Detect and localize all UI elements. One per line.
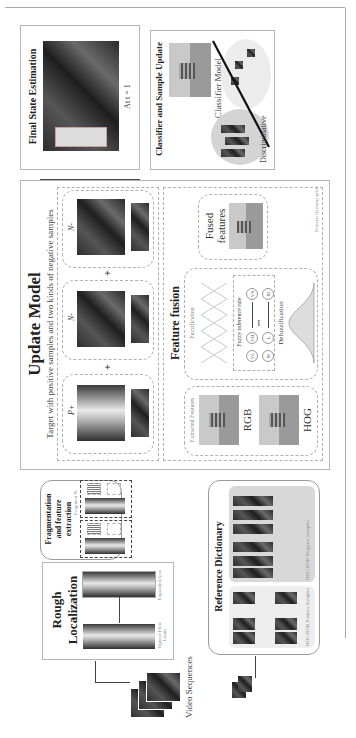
negative-sample-image: [77, 291, 125, 347]
rule-node: VL: [246, 350, 258, 362]
expanded-area-image: [83, 572, 155, 597]
boundary-label: Discriminative: [259, 103, 268, 163]
fuzzy-rule-label: Fuzzy inference rule: [236, 274, 242, 370]
rule-arrow: [252, 302, 253, 328]
fuzzy-rule-box: Fuzzy inference rule VL VH VS ••• M L M: [233, 275, 275, 371]
final-state-panel: Final State Estimation At t = 1: [20, 25, 140, 170]
fused-feature-chart: [229, 203, 263, 249]
hog-feature-chart: [259, 395, 299, 445]
rule-node: VS: [246, 288, 258, 300]
defuzzification-label: Defuzzification: [277, 267, 285, 379]
video-sequences-label: Video Sequences: [184, 638, 194, 718]
fused-features-card: Fused features: [198, 194, 268, 260]
update-model-panel: Update Model Target with positive sample…: [20, 180, 330, 470]
connector-line: [345, 8, 346, 638]
rule-node: L: [262, 332, 274, 344]
plus-sign: +: [102, 270, 113, 276]
fragment-image: [85, 538, 125, 554]
connector-line: [5, 7, 345, 8]
hog-histogram: [107, 523, 121, 535]
connector-arrow: [95, 661, 96, 683]
classifier-panel: Classifier and Sample Update Classifier …: [150, 30, 275, 170]
final-state-title: Final State Estimation: [27, 24, 38, 169]
fragment-image: [131, 295, 149, 343]
optical-flow-caption: Optical Flow Limits: [157, 615, 167, 655]
reference-dictionary-title: Reference Dictionary: [213, 479, 224, 654]
fragment-image: [131, 203, 149, 251]
classifier-input-chart: [169, 43, 211, 97]
negative-sample-image: [77, 199, 125, 255]
feature-fusion-panel: Feature fusion Extracted Features RGB HO…: [163, 187, 323, 461]
rgb-histogram: [87, 483, 101, 495]
fuzzification-label: Fuzzification: [189, 267, 195, 379]
negative-sample-card-2: N-: [62, 190, 154, 268]
connector-arrow: [119, 597, 120, 623]
expanded-area-caption: Expanded Area: [157, 565, 162, 605]
fragmentation-title-3: extraction: [64, 479, 73, 559]
positive-sample-image: [77, 385, 125, 441]
video-frames-small: [232, 673, 257, 698]
membership-functions-icon: [199, 283, 229, 363]
n-minus-label: N-: [67, 223, 76, 231]
rgb-feature-chart: [199, 395, 239, 445]
reference-dictionary-update-label: Reference Dictionary update: [314, 186, 319, 260]
positive-sample-card: P+: [62, 374, 154, 454]
update-model-title: Update Model: [25, 179, 45, 469]
positive-samples-label: HOG RGB Positive Samples: [305, 586, 310, 646]
final-state-image: [43, 41, 119, 151]
reference-dictionary-panel: Reference Dictionary HOG RGB Positive Sa…: [208, 480, 320, 655]
hog-label: HOG: [301, 385, 313, 455]
n-minus-label: N-: [67, 313, 76, 321]
fuzzy-inference-card: Fuzzification Fuzzy inference rule VL VH…: [184, 268, 318, 380]
video-frames: [130, 673, 185, 718]
optical-flow-image: [83, 624, 155, 649]
fragment-n-box: Fragment N: [80, 480, 132, 518]
samples-container: P+ + N- + N-: [57, 187, 159, 461]
rough-localization-title: Rough: [49, 561, 65, 659]
rule-node: M: [262, 350, 274, 362]
gaussian-surface-icon: [287, 283, 315, 363]
pipeline-diagram: Video Sequences Rough Localization Optic…: [0, 0, 356, 738]
fused-label-2: features: [215, 193, 227, 259]
rough-localization-title-2: Localization: [65, 561, 81, 659]
negative-samples-group: HOG RGB Negative Samples: [229, 486, 315, 582]
positive-samples-group: HOG RGB Positive Samples: [229, 586, 315, 648]
connector-line: [40, 179, 140, 180]
plus-sign: +: [102, 364, 113, 370]
rgb-label: RGB: [241, 385, 253, 455]
connector-arrow: [255, 656, 256, 678]
feature-fusion-title: Feature fusion: [168, 186, 183, 460]
rule-ellipsis: •••: [256, 320, 262, 326]
rule-node: M: [262, 288, 274, 300]
extracted-features-label: Extracted Features: [189, 385, 195, 455]
p-plus-label: P+: [67, 405, 76, 415]
fragment-n-label: Fragment N: [73, 481, 78, 515]
negative-samples-label: HOG RGB Negative Samples: [305, 490, 310, 580]
update-model-subtitle: Target with positive samples and two kin…: [45, 179, 55, 469]
extracted-features-card: Extracted Features RGB HOG: [184, 386, 318, 456]
fragmentation-title: Fragmentation: [44, 479, 53, 559]
hog-histogram: [107, 483, 121, 495]
negative-sample-card-1: N-: [62, 280, 154, 360]
fragment-image: [131, 389, 149, 437]
fragment-1-box: [80, 520, 132, 558]
connector-arrow: [95, 682, 130, 683]
final-state-caption: At t = 1: [123, 24, 132, 169]
rule-arrow: [268, 302, 269, 328]
tracked-target-box: [55, 127, 107, 147]
rough-localization-panel: Rough Localization Optical Flow Limits E…: [42, 562, 174, 660]
rgb-histogram: [87, 523, 101, 535]
classifier-title: Classifier and Sample Update: [154, 29, 164, 169]
rule-node: VH: [246, 332, 258, 344]
fragmentation-title-2: and feature: [54, 479, 63, 559]
fragment-image: [85, 498, 125, 514]
fused-label: Fused: [203, 193, 215, 259]
